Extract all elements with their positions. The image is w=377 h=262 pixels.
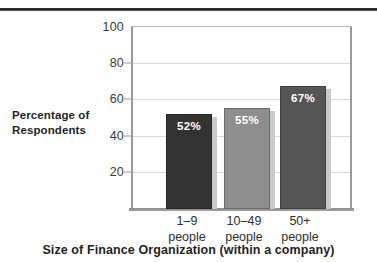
- y-axis-title-line-2: Respondents: [12, 123, 116, 138]
- y-tick-mark-40: [124, 135, 131, 136]
- bar-value-label: 67%: [281, 92, 325, 104]
- y-axis-title-line-1: Percentage of: [12, 108, 116, 123]
- plot-area: 52% 55% 67%: [131, 26, 352, 209]
- bar-value-label: 52%: [167, 120, 211, 132]
- bar-value-label: 55%: [225, 114, 269, 126]
- bar-chart-figure: 52% 55% 67% 100 80 60 40 20 1–9 people 1…: [0, 0, 377, 262]
- category-line-1: 50+: [262, 213, 338, 229]
- y-tick-mark-60: [124, 99, 131, 100]
- y-tick-label-60: 60: [94, 92, 124, 106]
- x-axis-title: Size of Finance Organization (within a c…: [0, 243, 377, 257]
- y-tick-mark-80: [124, 62, 131, 63]
- y-tick-label-20: 20: [94, 165, 124, 179]
- y-tick-mark-20: [124, 172, 131, 173]
- gridline-80: [133, 63, 350, 64]
- bar-10-49-people[interactable]: 55%: [224, 108, 270, 209]
- bar-50-plus-people[interactable]: 67%: [280, 86, 326, 209]
- y-axis-title: Percentage of Respondents: [12, 108, 116, 138]
- bar-1-9-people[interactable]: 52%: [166, 114, 212, 209]
- x-category-label-3: 50+ people: [262, 213, 338, 245]
- y-tick-label-100: 100: [94, 20, 124, 34]
- y-tick-label-80: 80: [94, 56, 124, 70]
